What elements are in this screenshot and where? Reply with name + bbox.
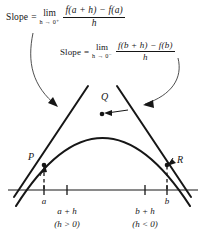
condition-label-h-negative: (h < 0) xyxy=(119,219,171,229)
point-dot-Q xyxy=(100,112,105,117)
condition-label-h-positive: (h > 0) xyxy=(41,219,93,229)
right-limit-subscript: h → 0⁻ xyxy=(92,53,112,59)
axis-label-b: b xyxy=(157,196,177,206)
right-slope-formula: Slope = lim h → 0⁻ f(b + h) − f(b) h xyxy=(60,41,175,62)
right-difference-quotient: f(b + h) − f(b) h xyxy=(116,41,175,62)
point-label-P: P xyxy=(28,151,34,162)
leader-arrowhead-right xyxy=(143,100,154,108)
axis-label-b-plus-h: b + h xyxy=(125,206,165,216)
right-slope-label: Slope xyxy=(60,47,81,57)
axis-label-a-plus-h: a + h xyxy=(47,206,87,216)
secant-line-right xyxy=(117,86,191,197)
leader-arrowhead-left xyxy=(48,97,58,107)
point-dot-P xyxy=(42,163,47,168)
right-denominator: h xyxy=(143,52,148,62)
left-limit-operator: lim h → 0⁺ xyxy=(40,9,60,26)
calculus-secant-slope-figure: Slope = lim h → 0⁺ f(a + h) − f(a) h Slo… xyxy=(0,0,205,234)
axis-label-a: a xyxy=(34,196,54,206)
leader-arrowhead-Q xyxy=(104,110,112,116)
leader-arrow-left xyxy=(31,33,57,106)
left-slope-formula: Slope = lim h → 0⁺ f(a + h) − f(a) h xyxy=(6,6,125,28)
right-limit-word: lim xyxy=(96,43,108,52)
left-difference-quotient: f(a + h) − f(a) h xyxy=(63,6,125,28)
right-numerator: f(b + h) − f(b) xyxy=(116,41,175,51)
point-label-Q: Q xyxy=(101,91,108,102)
left-numerator: f(a + h) − f(a) xyxy=(63,6,125,17)
point-label-R: R xyxy=(177,154,183,165)
leader-arrow-right xyxy=(145,58,179,104)
left-denominator: h xyxy=(92,18,97,29)
left-limit-word: lim xyxy=(43,9,56,19)
left-equals-sign: = xyxy=(31,12,36,22)
left-limit-subscript: h → 0⁺ xyxy=(40,19,60,25)
right-equals-sign: = xyxy=(84,47,89,57)
right-limit-operator: lim h → 0⁻ xyxy=(92,43,112,59)
left-slope-label: Slope xyxy=(6,12,28,22)
